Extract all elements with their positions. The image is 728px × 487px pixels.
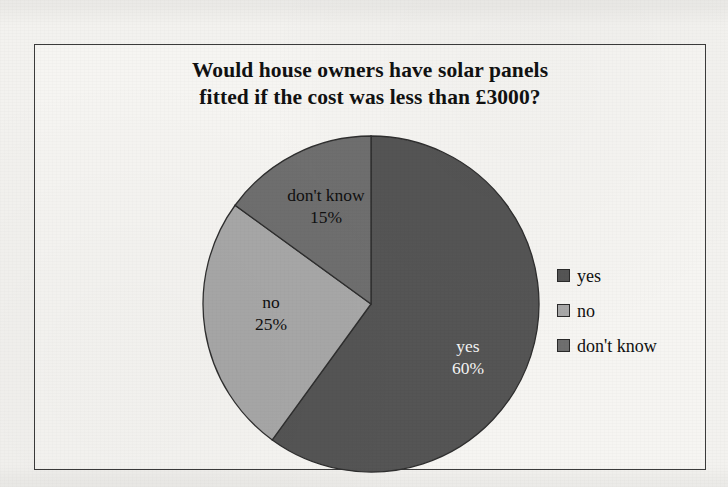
pie-slice-label-yes-value: 60% [452, 358, 484, 378]
pie-slice-label-dont-know-value: 15% [310, 207, 342, 227]
legend-item-yes[interactable]: yes [557, 258, 707, 293]
pie-slice-label-no-name: no [262, 292, 280, 312]
chart-legend: yes no don't know [557, 258, 707, 363]
pie-slice-label-dont-know-name: don't know [287, 185, 365, 205]
pie-slice-label-no-value: 25% [255, 314, 287, 334]
legend-swatch-icon-yes [557, 269, 570, 282]
scanned-page: Would house owners have solar panels fit… [0, 0, 728, 487]
chart-title: Would house owners have solar panels fit… [35, 57, 705, 111]
legend-swatch-icon-dont-know [557, 339, 570, 352]
legend-item-dont-know[interactable]: don't know [557, 328, 707, 363]
chart-title-line-1: Would house owners have solar panels [35, 57, 705, 84]
chart-title-line-2: fitted if the cost was less than £3000? [35, 84, 705, 111]
legend-label-no: no [577, 302, 595, 320]
pie-slice-label-yes-name: yes [456, 336, 480, 356]
chart-frame: Would house owners have solar panels fit… [34, 44, 706, 470]
legend-item-no[interactable]: no [557, 293, 707, 328]
pie-chart: yes 60% no 25% don't know 15% [201, 134, 541, 474]
pie-svg: yes 60% no 25% don't know 15% [201, 134, 541, 474]
legend-label-yes: yes [577, 267, 601, 285]
legend-label-dont-know: don't know [577, 337, 657, 355]
legend-swatch-icon-no [557, 304, 570, 317]
